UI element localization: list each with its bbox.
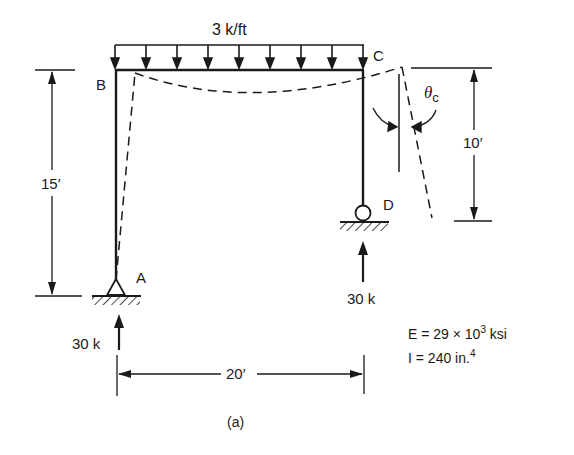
reaction-label-a: 30 k [72,336,100,351]
dimension-label-15ft: 15′ [41,176,61,191]
dimension-label-10ft: 10′ [463,135,483,150]
frame-members [115,70,364,280]
rotation-arrows [373,108,436,132]
inertia-label: I = 240 in.4 [408,349,475,365]
load-arrows [111,45,367,68]
figure-caption: (a) [227,415,244,429]
node-label-a: A [136,270,146,285]
pin-support-a [92,279,141,305]
node-label-d: D [383,197,394,212]
reaction-arrows [114,241,368,350]
frame-diagram [0,0,574,455]
reaction-label-d: 30 k [347,291,375,306]
deflected-shape [116,67,432,280]
distributed-load [111,45,367,68]
rotation-label: θc [424,84,439,101]
load-label: 3 k/ft [212,22,247,38]
theta-subscript: c [432,90,439,105]
modulus-label: E = 29 × 103 ksi [408,325,507,341]
roller-support-d [340,206,389,232]
node-label-b: B [96,77,106,92]
dimension-label-20ft: 20′ [226,366,246,381]
node-label-c: C [373,48,384,63]
